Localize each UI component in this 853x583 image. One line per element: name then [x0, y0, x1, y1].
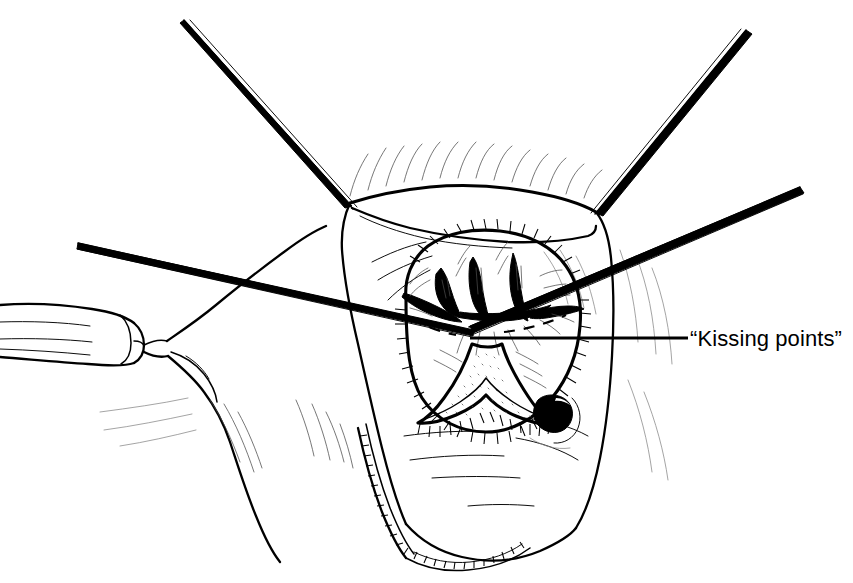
- medical-illustration-figure: “Kissing points”: [0, 0, 853, 583]
- figure-background: [0, 0, 853, 583]
- illustration-canvas: [0, 0, 853, 583]
